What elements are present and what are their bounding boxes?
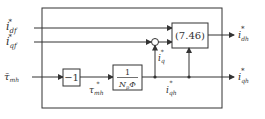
svg-text:(7.46): (7.46) xyxy=(175,30,205,41)
output-i-qh: iqh* xyxy=(238,67,249,85)
i-qh-star-label: iqh* xyxy=(166,79,177,97)
eq-7-46-block: (7.46) xyxy=(172,23,208,48)
negative-gain-block: −1 xyxy=(63,69,80,86)
svg-text:τ̄mh: τ̄mh xyxy=(4,71,19,83)
summing-junction xyxy=(152,39,159,46)
i-q-star-label: iq* xyxy=(158,48,165,65)
tau-mh-star-label: τmh* xyxy=(89,80,104,96)
input-tau-mh: τ̄mh xyxy=(4,71,63,83)
block-diagram: idf* iqf* (7.46) idh* τ̄mh −1 τmh* 1 NpΦ xyxy=(0,0,265,119)
output-i-dh: idh* xyxy=(208,25,249,42)
svg-text:−1: −1 xyxy=(64,72,79,83)
svg-text:idh*: idh* xyxy=(238,25,249,42)
svg-text:1: 1 xyxy=(125,68,130,77)
svg-text:iqf*: iqf* xyxy=(6,33,18,50)
input-i-qf: iqf* xyxy=(6,33,151,50)
torque-constant-block: 1 NpΦ xyxy=(113,65,142,91)
input-i-df: idf* xyxy=(6,18,172,35)
